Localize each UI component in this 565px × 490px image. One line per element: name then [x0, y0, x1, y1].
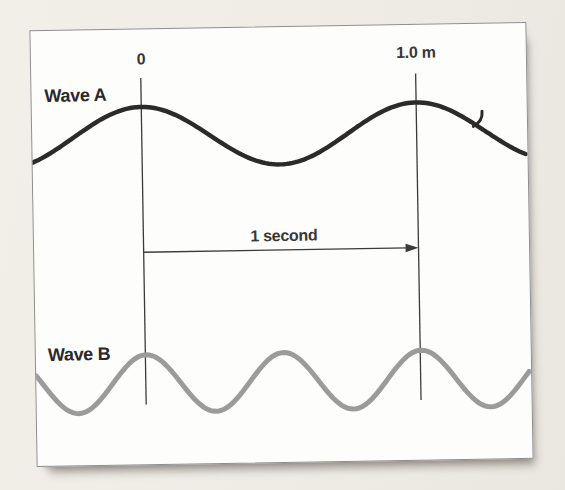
wave-a-curve — [32, 101, 526, 169]
marker-zero-label: 0 — [136, 51, 145, 67]
marker-distance-label: 1.0 m — [396, 44, 436, 61]
time-arrow-shaft — [144, 248, 408, 252]
interval-label: 1 second — [250, 227, 317, 244]
scanned-page: { "figure": { "wave_a_label": "Wave A", … — [0, 0, 565, 490]
wave-b-label: Wave B — [48, 345, 111, 364]
figure-frame: Wave A Wave B 0 1.0 m 1 second — [29, 22, 533, 467]
time-arrow-head — [406, 243, 419, 252]
stray-ink-mark — [473, 111, 482, 126]
wave-a-label: Wave A — [44, 86, 106, 105]
